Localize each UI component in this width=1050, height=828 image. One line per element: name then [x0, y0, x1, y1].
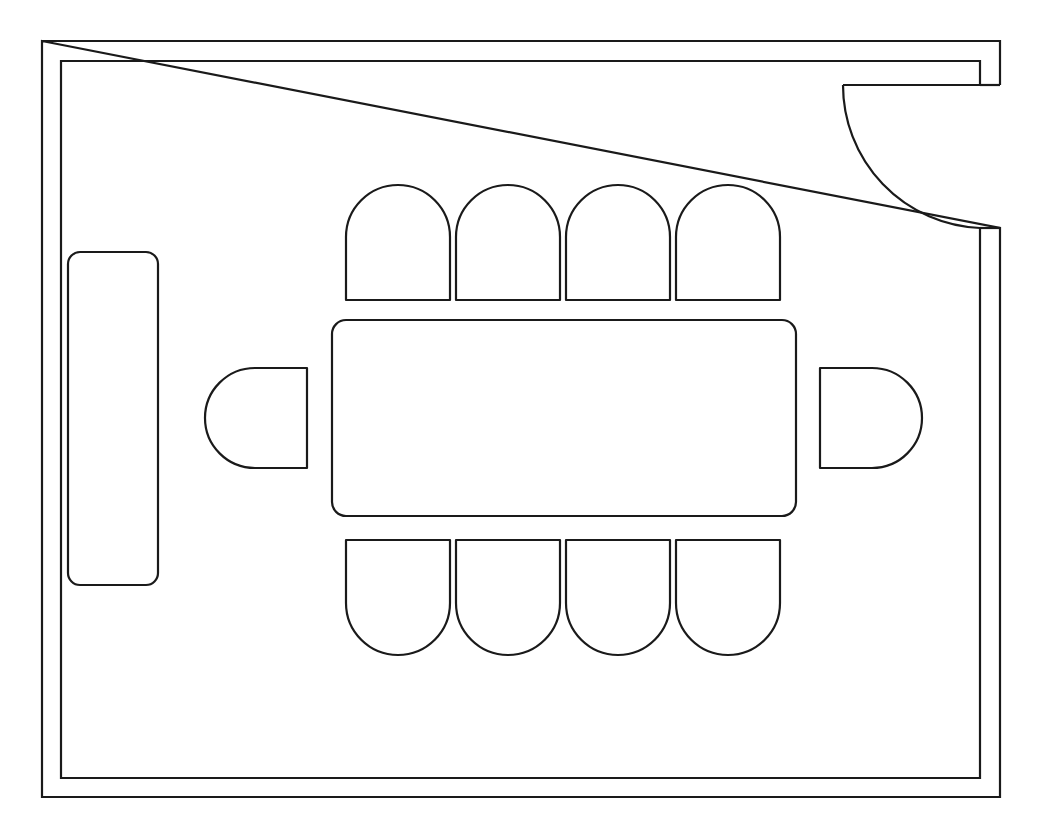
chair-bottom-4[interactable] — [676, 540, 780, 655]
chair-top-3[interactable] — [566, 185, 670, 300]
chair-top-1[interactable] — [346, 185, 450, 300]
chair-row-bottom — [346, 540, 780, 655]
floor-plan-canvas — [0, 0, 1050, 828]
chair-left-1[interactable] — [205, 368, 307, 468]
chair-right-1[interactable] — [820, 368, 922, 468]
conference-table[interactable] — [332, 320, 796, 516]
chair-top-4[interactable] — [676, 185, 780, 300]
door-swing-arc — [843, 85, 980, 228]
table-group[interactable] — [332, 320, 796, 516]
chair-top-2[interactable] — [456, 185, 560, 300]
floor-plan-drawing — [0, 0, 1050, 828]
chair-row-top — [346, 185, 780, 300]
chair-end-left — [205, 368, 307, 468]
chair-end-right — [820, 368, 922, 468]
chair-bottom-3[interactable] — [566, 540, 670, 655]
chair-bottom-1[interactable] — [346, 540, 450, 655]
chair-bottom-2[interactable] — [456, 540, 560, 655]
credenza-group[interactable] — [68, 252, 158, 585]
credenza[interactable] — [68, 252, 158, 585]
door-assembly[interactable] — [843, 85, 980, 228]
